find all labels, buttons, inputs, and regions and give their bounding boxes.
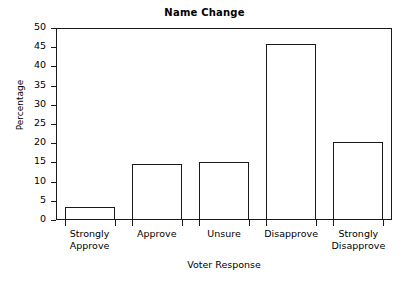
x-axis-tick-mark [249,220,250,226]
y-axis-tick-mark [51,220,56,221]
y-axis-tick-label: 30 [34,98,46,109]
x-axis-category-label: Strongly Approve [56,228,123,251]
bar [199,162,249,220]
y-axis-tick-mark [51,124,56,125]
bar [266,44,316,220]
y-axis-tick-label: 0 [40,213,46,224]
y-axis-tick-label: 40 [34,59,46,70]
x-axis-tick-mark [383,220,384,226]
y-axis-tick-mark [51,182,56,183]
bar [333,142,383,220]
y-axis-tick-label: 50 [34,21,46,32]
y-axis-tick-mark [51,162,56,163]
x-axis-category-label: Disapprove [258,228,325,240]
y-axis-tick-mark [51,47,56,48]
x-axis-tick-mark [65,220,66,226]
x-axis-label: Voter Response [56,259,392,270]
chart-page: Name Change Percentage Voter Response 05… [0,0,409,282]
chart-title: Name Change [0,7,409,18]
bar [65,207,115,220]
y-axis-tick-label: 35 [34,79,46,90]
x-axis-tick-mark [182,220,183,226]
y-axis-tick-mark [51,201,56,202]
y-axis-tick-label: 10 [34,175,46,186]
y-axis-tick-mark [51,66,56,67]
y-axis-tick-mark [51,143,56,144]
x-axis-category-label: Strongly Disapprove [325,228,392,251]
y-axis-tick-mark [51,105,56,106]
x-axis-tick-mark [316,220,317,226]
y-axis-tick-mark [51,86,56,87]
y-axis-tick-mark [51,28,56,29]
bar [132,164,182,220]
x-axis-tick-mark [115,220,116,226]
y-axis-tick-label: 15 [34,155,46,166]
x-axis-tick-mark [132,220,133,226]
x-axis-tick-mark [266,220,267,226]
y-axis-tick-label: 45 [34,40,46,51]
y-axis-tick-label: 20 [34,136,46,147]
y-axis-tick-label: 5 [40,194,46,205]
y-axis-label: Percentage [15,45,25,165]
x-axis-category-label: Approve [123,228,190,240]
x-axis-tick-mark [199,220,200,226]
y-axis-tick-label: 25 [34,117,46,128]
x-axis-tick-mark [333,220,334,226]
x-axis-category-label: Unsure [190,228,257,240]
